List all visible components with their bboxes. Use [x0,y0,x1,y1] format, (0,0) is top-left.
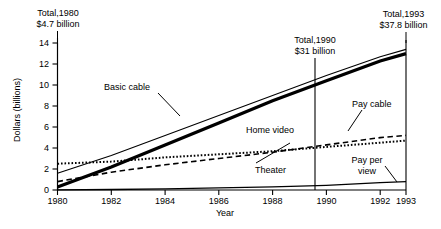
series-label-theater: Theater [255,165,286,176]
y-tick-label-10: 10 [33,80,49,90]
y-axis-title: Dollars (billions) [12,60,22,160]
annotation-total-1993-line1: Total,1993 [366,9,441,20]
y-tick-label-4: 4 [33,143,49,153]
x-tick-label-1986: 1986 [204,196,234,206]
x-tick-marks [58,190,407,195]
leader-line-pay-cable [348,110,362,131]
annotation-total-1993-line2: $37.8 billion [366,20,441,31]
x-tick-label-1980: 1980 [43,196,73,206]
x-axis-title: Year [185,208,265,218]
y-tick-label-0: 0 [33,185,49,195]
y-tick-label-12: 12 [33,59,49,69]
leader-line-basic-cable [158,93,180,116]
annotation-total-1980-line1: Total,1980 [23,8,93,19]
series-line-pay-per-view [58,182,407,190]
x-tick-label-1984: 1984 [150,196,180,206]
y-tick-label-6: 6 [33,122,49,132]
x-tick-label-1982: 1982 [96,196,126,206]
y-tick-marks [53,43,58,190]
x-tick-label-1990: 1990 [311,196,341,206]
y-tick-label-14: 14 [33,38,49,48]
annotation-total-1980-line2: $4.7 billion [23,19,93,30]
series-label-pay-per-view-line2: view [344,166,390,177]
series-label-home-video: Home video [246,125,294,136]
annotation-total-1990-line2: $31 billion [280,46,350,57]
series-label-basic-cable: Basic cable [104,82,150,93]
x-tick-label-1993: 1993 [391,196,421,206]
series-label-pay-cable: Pay cable [352,99,392,110]
y-tick-label-2: 2 [33,164,49,174]
series-label-pay-per-view-line1: Pay per [344,155,390,166]
annotation-total-1990-line1: Total,1990 [280,35,350,46]
x-tick-label-1988: 1988 [258,196,288,206]
chart-figure: 14 12 10 8 6 4 2 0 1980 1982 1984 1986 1… [0,0,441,229]
y-tick-label-8: 8 [33,101,49,111]
chart-plot-area [0,0,441,229]
leader-line-theater [256,143,290,163]
